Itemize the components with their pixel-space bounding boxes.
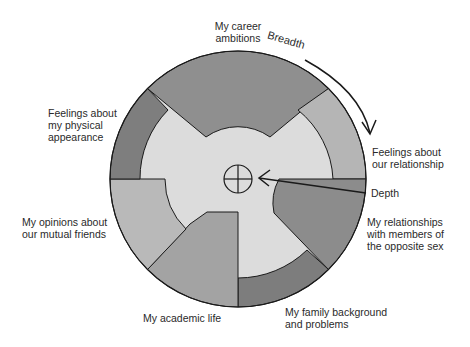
label-depth: Depth — [371, 187, 399, 199]
social-penetration-diagram: Breadth — [0, 0, 470, 347]
center-target-icon — [224, 165, 252, 193]
label-friends: My opinions about our mutual friends — [22, 216, 107, 240]
label-academic: My academic life — [143, 312, 221, 324]
label-career: My career ambitions — [186, 20, 290, 44]
label-family: My family background and problems — [285, 306, 387, 330]
label-relationship: Feelings about our relationship — [372, 146, 444, 170]
label-appearance: Feelings about my physical appearance — [48, 107, 117, 143]
label-opposite-sex: My relationships with members of the opp… — [367, 216, 444, 252]
